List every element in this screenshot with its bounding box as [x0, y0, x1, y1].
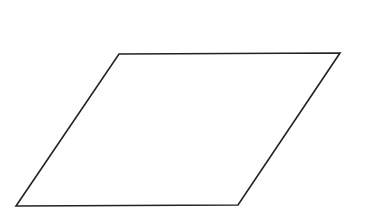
diagram-background [0, 0, 372, 215]
diagram-canvas [0, 0, 372, 215]
